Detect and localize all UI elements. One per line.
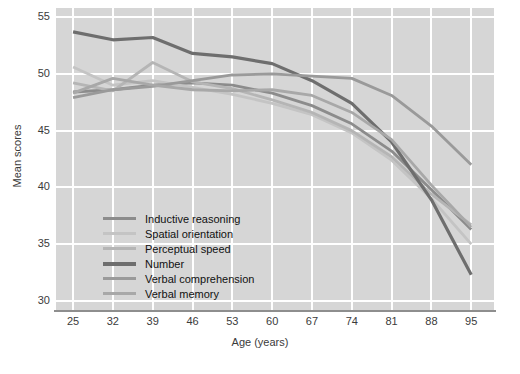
- chart-figure: 555045403530 2532394653606774818895 Mean…: [0, 0, 520, 374]
- y-axis-title: Mean scores: [11, 111, 23, 201]
- x-tick-label: 74: [332, 316, 372, 327]
- legend-item-label: Verbal comprehension: [145, 273, 254, 285]
- x-tick-label: 81: [372, 316, 412, 327]
- legend-swatch-icon: [103, 262, 136, 266]
- legend-item-label: Inductive reasoning: [145, 213, 240, 225]
- x-tick-label: 25: [53, 316, 93, 327]
- series-line: [73, 83, 471, 229]
- legend-swatch-icon: [103, 277, 136, 281]
- legend-item-label: Verbal memory: [145, 288, 219, 300]
- y-tick-label: 55: [0, 11, 50, 22]
- legend-item-label: Number: [145, 258, 184, 270]
- series-line: [73, 74, 471, 165]
- legend-swatch-icon: [103, 232, 136, 236]
- legend-item[interactable]: Inductive reasoning: [103, 211, 254, 226]
- y-tick-label: 30: [0, 295, 50, 306]
- legend: Inductive reasoningSpatial orientationPe…: [103, 211, 254, 301]
- x-tick-label: 60: [252, 316, 292, 327]
- legend-item[interactable]: Verbal comprehension: [103, 271, 254, 286]
- x-tick-label: 32: [93, 316, 133, 327]
- y-tick-label: 40: [0, 181, 50, 192]
- x-tick-label: 95: [451, 316, 491, 327]
- x-axis-line: [54, 310, 496, 312]
- y-tick-label: 45: [0, 125, 50, 136]
- x-tick-label: 88: [411, 316, 451, 327]
- legend-swatch-icon: [103, 217, 136, 221]
- x-tick-label: 53: [212, 316, 252, 327]
- legend-swatch-icon: [103, 247, 136, 251]
- x-tick-label: 39: [133, 316, 173, 327]
- x-tick-label: 67: [292, 316, 332, 327]
- x-tick-label: 46: [173, 316, 213, 327]
- legend-swatch-icon: [103, 292, 136, 296]
- legend-item-label: Spatial orientation: [145, 228, 233, 240]
- legend-item[interactable]: Number: [103, 256, 254, 271]
- legend-item[interactable]: Perceptual speed: [103, 241, 254, 256]
- x-axis-title: Age (years): [0, 336, 520, 348]
- legend-item-label: Perceptual speed: [145, 243, 231, 255]
- y-tick-label: 35: [0, 238, 50, 249]
- y-tick-label: 50: [0, 68, 50, 79]
- legend-item[interactable]: Spatial orientation: [103, 226, 254, 241]
- legend-item[interactable]: Verbal memory: [103, 286, 254, 301]
